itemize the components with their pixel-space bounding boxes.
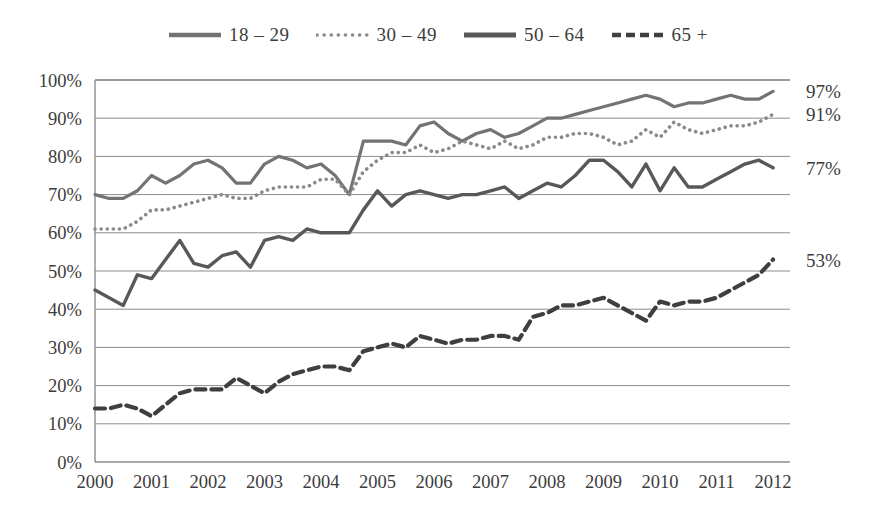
x-axis-tick-label: 2003 bbox=[246, 472, 283, 492]
x-axis-tick-label: 2006 bbox=[416, 472, 453, 492]
series-end-labels: 97%91%77%53% bbox=[806, 81, 841, 270]
y-axis-tick-labels: 0%10%20%30%40%50%60%70%80%90%100% bbox=[39, 71, 82, 473]
y-axis-tick-label: 40% bbox=[48, 300, 82, 320]
y-axis-tick-label: 10% bbox=[48, 414, 82, 434]
end-label-65+: 53% bbox=[806, 250, 841, 271]
y-axis-tick-label: 30% bbox=[48, 338, 82, 358]
chart-plot-area: 0%10%20%30%40%50%60%70%80%90%100% 200020… bbox=[0, 0, 876, 522]
x-axis-tick-label: 2008 bbox=[529, 472, 566, 492]
x-axis-tick-label: 2011 bbox=[698, 472, 734, 492]
data-series-group bbox=[95, 91, 773, 416]
y-axis-tick-label: 70% bbox=[48, 185, 82, 205]
x-axis-tick-label: 2001 bbox=[133, 472, 170, 492]
x-axis-tick-label: 2002 bbox=[190, 472, 227, 492]
series-line-18-29 bbox=[95, 91, 773, 198]
x-axis-tick-label: 2012 bbox=[755, 472, 792, 492]
y-axis-tick-label: 60% bbox=[48, 223, 82, 243]
end-label-50-64: 77% bbox=[806, 158, 841, 179]
end-label-30-49: 91% bbox=[806, 104, 841, 125]
y-axis-tick-label: 20% bbox=[48, 376, 82, 396]
x-axis-tick-label: 2000 bbox=[77, 472, 114, 492]
y-axis-tick-label: 100% bbox=[39, 71, 82, 91]
y-axis-tick-label: 90% bbox=[48, 109, 82, 129]
x-axis-tick-label: 2005 bbox=[359, 472, 396, 492]
x-axis-tick-label: 2007 bbox=[472, 472, 509, 492]
x-axis-tick-label: 2009 bbox=[585, 472, 622, 492]
gridlines-group bbox=[95, 80, 790, 424]
x-axis-tick-labels: 2000200120022003200420052006200720082009… bbox=[77, 472, 792, 492]
x-axis-tick-label: 2004 bbox=[303, 472, 340, 492]
y-axis-tick-label: 50% bbox=[48, 262, 82, 282]
series-line-65+ bbox=[95, 260, 773, 417]
y-axis-tick-label: 0% bbox=[57, 453, 82, 473]
y-axis-tick-label: 80% bbox=[48, 147, 82, 167]
x-axis-tick-label: 2010 bbox=[642, 472, 679, 492]
end-label-18-29: 97% bbox=[806, 81, 841, 102]
chart-container: 18 – 29 30 – 49 50 – 64 65 + 0%10%20%30%… bbox=[0, 0, 876, 522]
